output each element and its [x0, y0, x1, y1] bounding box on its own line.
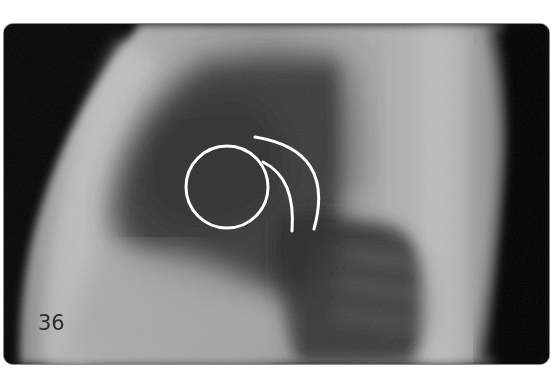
figure-number-label: 36 — [38, 313, 65, 334]
xray-image — [4, 24, 549, 364]
side-marker-l: L — [472, 26, 483, 46]
xray-image-frame: L 36 — [4, 24, 549, 364]
